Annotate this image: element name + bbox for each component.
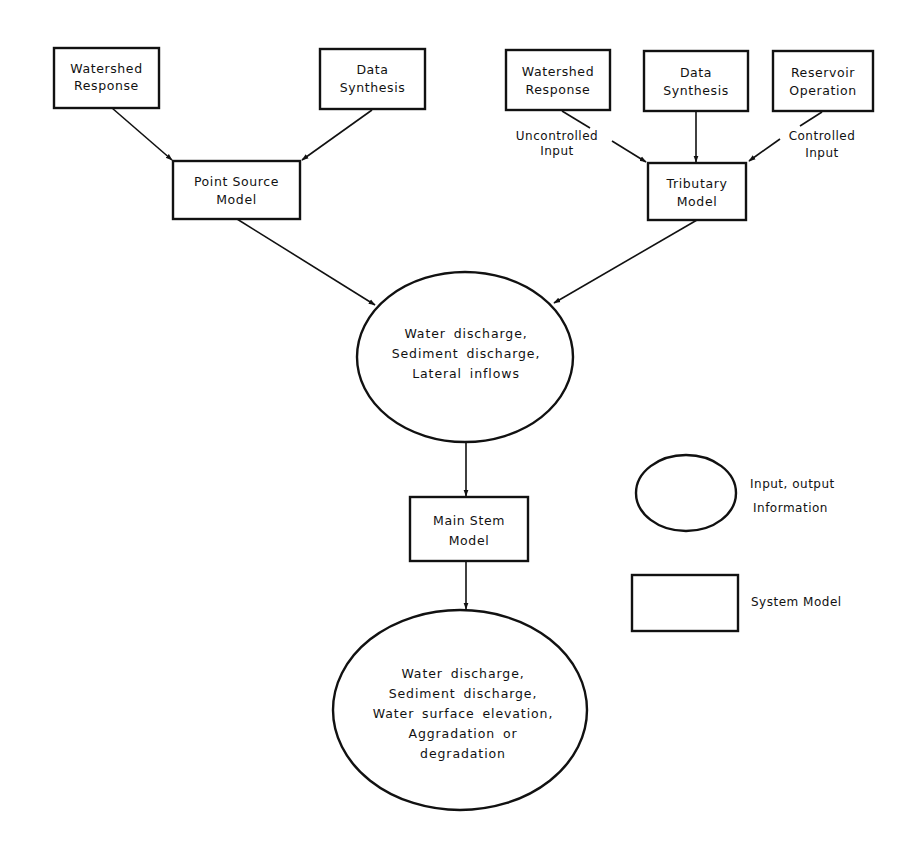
edge-tributary-to-inflows — [554, 220, 697, 303]
legend-label-line: Input, output — [750, 477, 835, 491]
edge-point-source-to-inflows — [237, 219, 375, 305]
node-label-line: Response — [74, 78, 139, 93]
node-label-line: Operation — [789, 83, 857, 98]
legend: Input, output Information System Model — [632, 455, 842, 631]
node-label-line: Sediment discharge, — [392, 346, 541, 361]
node-outputs-information: Water discharge, Sediment discharge, Wat… — [333, 610, 587, 810]
node-label-line: Watershed — [522, 64, 594, 79]
node-data-synthesis-right: Data Synthesis — [644, 51, 748, 111]
node-label-line: degradation — [420, 746, 506, 761]
legend-label-line: Information — [753, 501, 828, 515]
node-label-line: Response — [526, 82, 591, 97]
legend-item-information: Input, output Information — [636, 455, 835, 531]
node-tributary-model: Tributary Model — [648, 163, 746, 220]
node-label-line: Model — [449, 533, 490, 548]
edge-label-line: Controlled — [789, 129, 856, 143]
node-label-line: Watershed — [70, 61, 142, 76]
node-label-line: Lateral inflows — [412, 366, 520, 381]
node-reservoir-operation: Reservoir Operation — [773, 51, 873, 111]
node-label-line: Main Stem — [433, 513, 505, 528]
edge-watershed-right-to-tributary — [612, 141, 646, 162]
node-inflows-information: Water discharge, Sediment discharge, Lat… — [357, 272, 573, 442]
node-label-line: Reservoir — [791, 65, 855, 80]
node-label-line: Model — [216, 192, 257, 207]
edge-label-line: Input — [540, 144, 574, 158]
edge-watershed-right-upper-segment — [562, 111, 590, 128]
node-label-line: Water surface elevation, — [373, 706, 554, 721]
legend-label: System Model — [751, 595, 842, 609]
edge-reservoir-upper-segment — [800, 112, 822, 126]
node-label-line: Data — [680, 65, 712, 80]
node-label-line: Water discharge, — [401, 666, 524, 681]
system-model-box — [410, 497, 528, 561]
system-model-box — [644, 51, 748, 111]
system-model-box — [506, 50, 610, 110]
node-watershed-response-left: Watershed Response — [54, 48, 159, 108]
system-model-box — [173, 161, 300, 219]
system-model-box — [773, 51, 873, 111]
node-point-source-model: Point Source Model — [173, 161, 300, 219]
node-label-line: Sediment discharge, — [389, 686, 538, 701]
edge-label-uncontrolled-input: Uncontrolled Input — [516, 129, 598, 158]
edge-reservoir-to-tributary — [749, 139, 780, 161]
legend-rectangle-icon — [632, 575, 738, 631]
node-watershed-response-right: Watershed Response — [506, 50, 610, 110]
node-label-line: Water discharge, — [404, 326, 527, 341]
edge-label-line: Uncontrolled — [516, 129, 598, 143]
node-label-line: Aggradation or — [408, 726, 517, 741]
edge-watershed-left-to-point-source — [112, 108, 172, 160]
node-label-line: Data — [356, 62, 388, 77]
flow-diagram: Watershed Response Data Synthesis Point … — [0, 0, 923, 854]
legend-item-system-model: System Model — [632, 575, 842, 631]
node-main-stem-model: Main Stem Model — [410, 497, 528, 561]
node-label-line: Model — [677, 194, 718, 209]
edge-label-controlled-input: Controlled Input — [789, 129, 856, 160]
edge-data-synthesis-left-to-point-source — [302, 110, 372, 160]
system-model-box — [320, 49, 425, 109]
node-label-line: Synthesis — [340, 80, 406, 95]
edge-label-line: Input — [805, 146, 839, 160]
node-data-synthesis-left: Data Synthesis — [320, 49, 425, 109]
node-label-line: Synthesis — [663, 83, 729, 98]
legend-ellipse-icon — [636, 455, 736, 531]
system-model-box — [648, 163, 746, 220]
node-label-line: Tributary — [666, 176, 728, 191]
node-label-line: Point Source — [194, 174, 279, 189]
